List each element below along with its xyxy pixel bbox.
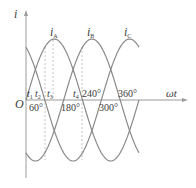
y-axis-arrow-icon — [24, 10, 28, 16]
origin-label: O — [15, 98, 24, 110]
time-mark-t2: t2 — [35, 89, 41, 100]
curve-label-ic: iC — [124, 26, 131, 39]
x-axis-label: ωt — [166, 88, 177, 99]
angle-mark-240: 240° — [82, 89, 101, 99]
curve-label-ib: iB — [87, 26, 94, 39]
time-mark-t4: t4 — [73, 89, 79, 100]
angle-mark-180: 180° — [61, 103, 80, 113]
three-phase-waveform-diagram: i ωt O iA iB iC t1 t2 t3 t4 240° 360° 60… — [0, 0, 196, 188]
x-axis-arrow-icon — [182, 98, 188, 102]
time-mark-t1: t1 — [27, 89, 33, 100]
time-mark-t3: t3 — [47, 89, 53, 100]
angle-mark-60: 60° — [29, 103, 43, 113]
y-axis-label: i — [14, 8, 17, 20]
angle-mark-300: 300° — [99, 103, 118, 113]
curve-label-ia: iA — [50, 26, 58, 39]
angle-mark-360: 360° — [118, 89, 137, 99]
